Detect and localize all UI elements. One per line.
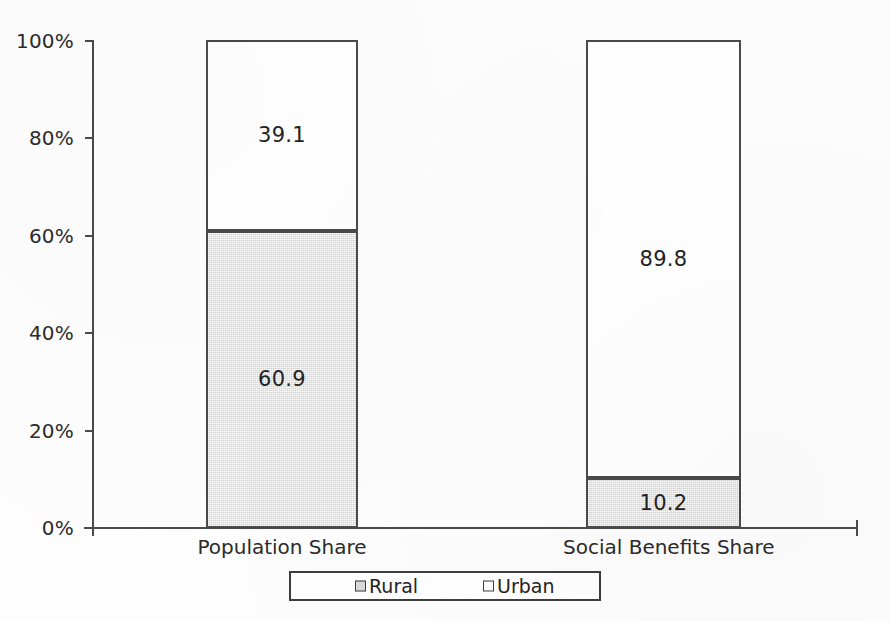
x-category-label-population-share: Population Share — [182, 537, 382, 557]
bar-value-label-rural-social-benefits: 10.2 — [640, 493, 688, 514]
y-tick-label-100: 100% — [0, 31, 74, 51]
x-axis-line — [84, 527, 858, 529]
x-category-label-social-benefits-share: Social Benefits Share — [563, 537, 763, 557]
bar-value-label-urban-social-benefits: 89.8 — [640, 249, 688, 270]
y-tick-label-0: 0% — [0, 518, 74, 538]
bar-segment-rural-population[interactable]: 60.9 — [206, 231, 358, 528]
bar-segment-urban-population[interactable]: 39.1 — [206, 40, 358, 231]
bar-value-label-urban-population: 39.1 — [258, 125, 306, 146]
y-tick-mark-100 — [85, 40, 94, 42]
y-tick-label-20: 20% — [0, 421, 74, 441]
legend-label-urban: Urban — [497, 577, 554, 596]
bar-segment-urban-social-benefits[interactable]: 89.8 — [586, 40, 741, 478]
y-tick-mark-0 — [85, 527, 94, 529]
chart-page: 100% 80% 60% 40% 20% 0% 39.1 60.9 Popula… — [0, 0, 890, 621]
y-tick-label-60: 60% — [0, 226, 74, 246]
bar-social-benefits-share[interactable]: 89.8 10.2 — [586, 40, 741, 528]
bar-value-label-rural-population: 60.9 — [258, 369, 306, 390]
y-axis-line — [92, 40, 94, 536]
y-tick-mark-40 — [85, 332, 94, 334]
y-tick-label-40: 40% — [0, 323, 74, 343]
legend-item-urban[interactable]: Urban — [483, 577, 554, 596]
legend-swatch-urban-icon — [483, 581, 494, 592]
legend-label-rural: Rural — [369, 577, 418, 596]
bar-population-share[interactable]: 39.1 60.9 — [206, 40, 358, 528]
plot-area: 100% 80% 60% 40% 20% 0% 39.1 60.9 Popula… — [0, 0, 890, 621]
legend-swatch-rural-icon — [355, 581, 366, 592]
y-tick-mark-20 — [85, 430, 94, 432]
x-axis-end-cap — [856, 520, 858, 536]
bar-segment-rural-social-benefits[interactable]: 10.2 — [586, 478, 741, 528]
y-tick-label-80: 80% — [0, 128, 74, 148]
y-tick-mark-60 — [85, 235, 94, 237]
y-tick-mark-80 — [85, 137, 94, 139]
legend: Rural Urban — [289, 571, 601, 601]
legend-item-rural[interactable]: Rural — [355, 577, 418, 596]
